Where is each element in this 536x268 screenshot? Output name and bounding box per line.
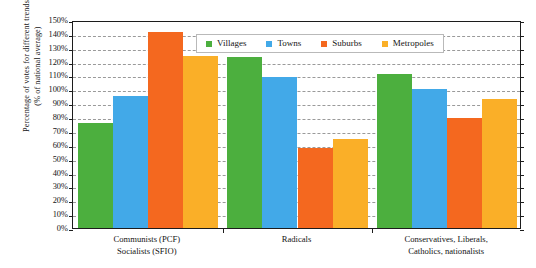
bar-villages-group-2 (227, 57, 262, 228)
x-group-label: Conservatives, Liberals,Catholics, natio… (405, 234, 488, 257)
y-tickmark-right (520, 119, 524, 120)
y-tickmark (69, 216, 73, 217)
y-tick-label: 60% (34, 142, 68, 150)
y-tickmark-right (520, 105, 524, 106)
bar-villages-group-3 (377, 74, 412, 228)
legend-item-suburbs[interactable]: Suburbs (321, 39, 362, 48)
y-tickmark-right (520, 230, 524, 231)
bar-suburbs-group-3 (447, 118, 482, 228)
y-tickmark (69, 64, 73, 65)
y-tickmark (69, 91, 73, 92)
y-tickmark (69, 202, 73, 203)
y-tick-label: 20% (34, 197, 68, 205)
y-tickmark (69, 105, 73, 106)
y-tickmark-right (520, 64, 524, 65)
y-tickmark (69, 133, 73, 134)
x-group-label-line: Conservatives, Liberals, (405, 234, 488, 246)
y-tickmark (69, 22, 73, 23)
y-tickmark-right (520, 147, 524, 148)
bar-towns-group-1 (113, 96, 148, 228)
bar-towns-group-2 (262, 77, 297, 228)
bar-metropoles-group-3 (482, 99, 517, 228)
y-tick-label: 130% (34, 45, 68, 53)
bar-suburbs-group-1 (148, 32, 183, 228)
legend-item-villages[interactable]: Villages (206, 39, 246, 48)
y-tick-label: 110% (34, 72, 68, 80)
bar-chart: Percentage of votes for different trends… (0, 0, 536, 268)
y-tickmark-right (520, 50, 524, 51)
y-tick-label: 50% (34, 155, 68, 163)
x-group-label-line: Catholics, nationalists (405, 246, 488, 258)
bar-towns-group-3 (412, 89, 447, 228)
y-tickmark (69, 147, 73, 148)
y-tickmark-right (520, 133, 524, 134)
x-axis-labels: Communists (PCF)Socialists (SFIO)Radical… (72, 234, 521, 268)
legend-item-metropoles[interactable]: Metropoles (382, 39, 434, 48)
bar-suburbs-group-2 (298, 148, 333, 228)
legend-swatch-icon (206, 41, 212, 47)
legend-swatch-icon (382, 41, 388, 47)
y-tickmark (69, 77, 73, 78)
y-tick-label: 40% (34, 169, 68, 177)
y-tick-label: 90% (34, 100, 68, 108)
y-tickmark-right (520, 216, 524, 217)
y-tickmark (69, 36, 73, 37)
y-tick-label: 150% (34, 17, 68, 25)
legend-label: Metropoles (393, 39, 434, 48)
y-tickmark-right (520, 22, 524, 23)
y-tick-label: 80% (34, 114, 68, 122)
legend-swatch-icon (321, 41, 327, 47)
y-axis-title-line-1: Percentage of votes for different trends (21, 0, 32, 171)
legend-item-towns[interactable]: Towns (266, 39, 301, 48)
x-group-label: Communists (PCF)Socialists (SFIO) (114, 234, 181, 257)
bar-villages-group-1 (78, 123, 113, 228)
y-tick-label: 30% (34, 183, 68, 191)
x-tickmark (223, 228, 224, 233)
y-tickmark (69, 119, 73, 120)
y-tickmark-right (520, 91, 524, 92)
x-group-label-line: Radicals (282, 234, 312, 246)
legend-label: Villages (217, 39, 246, 48)
x-group-label-line: Communists (PCF) (114, 234, 181, 246)
chart-legend: VillagesTownsSuburbsMetropoles (196, 34, 444, 53)
y-tickmark-right (520, 188, 524, 189)
y-tickmark (69, 188, 73, 189)
y-tickmark-right (520, 77, 524, 78)
y-tickmark-right (520, 175, 524, 176)
y-tick-label: 70% (34, 128, 68, 136)
x-tickmark (372, 228, 373, 233)
x-group-label: Radicals (282, 234, 312, 246)
y-tick-label: 120% (34, 58, 68, 66)
y-tickmark (69, 161, 73, 162)
y-tickmark (69, 175, 73, 176)
x-group-label-line: Socialists (SFIO) (114, 246, 181, 258)
bar-metropoles-group-2 (333, 139, 368, 228)
y-axis-tick-labels: 150%140%130%120%110%100%90%80%70%60%50%4… (34, 0, 68, 268)
legend-label: Towns (277, 39, 301, 48)
y-tick-label: 140% (34, 31, 68, 39)
y-tick-label: 0% (34, 225, 68, 233)
y-tick-label: 10% (34, 211, 68, 219)
y-tick-label: 100% (34, 86, 68, 94)
bar-metropoles-group-1 (183, 56, 218, 228)
y-tickmark-right (520, 36, 524, 37)
y-tickmark (69, 50, 73, 51)
y-tickmark (69, 230, 73, 231)
legend-label: Suburbs (332, 39, 362, 48)
y-tickmark-right (520, 202, 524, 203)
y-tickmark-right (520, 161, 524, 162)
legend-swatch-icon (266, 41, 272, 47)
